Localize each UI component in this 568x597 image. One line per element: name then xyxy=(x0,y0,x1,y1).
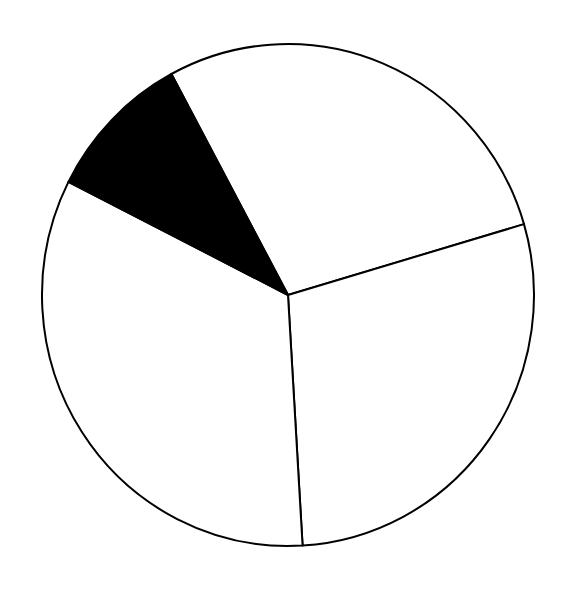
pie-chart xyxy=(0,0,568,597)
